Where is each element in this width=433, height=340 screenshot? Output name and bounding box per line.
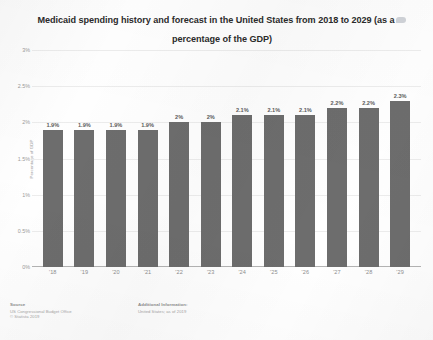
y-axis-tick-labels: 0% 0.5% 1% 1.5% 2% 2.5% 3% [8, 50, 30, 267]
page-title-line2: percentage of the GDP) [172, 34, 272, 44]
statista-logo-icon [396, 16, 407, 24]
x-tick-label: '29 [384, 269, 416, 275]
y-tick-label: 2.5% [18, 83, 30, 89]
x-tick-label: '27 [321, 269, 353, 275]
bar [295, 115, 315, 267]
y-tick-label: 0.5% [18, 228, 30, 234]
bar-value-label: 1.9% [78, 122, 91, 128]
bar [390, 101, 410, 267]
x-tick-label: '24 [226, 269, 258, 275]
bar-slot: 2% [195, 50, 227, 267]
bar-value-label: 2.1% [267, 107, 280, 113]
bar-slot: 2.1% [258, 50, 290, 267]
plot-area: Percentage of GDP 0% 0.5% 1% 1.5% 2% 2.5… [32, 50, 421, 267]
bar-slot: 2.3% [384, 50, 416, 267]
bar [201, 122, 221, 267]
footer-source-block: Source US Congressional Budget Office © … [10, 302, 138, 319]
bar [106, 130, 126, 267]
x-tick-label: '21 [132, 269, 164, 275]
bar-slot: 2.1% [226, 50, 258, 267]
x-tick-label: '26 [290, 269, 322, 275]
bar [43, 130, 63, 267]
bar-series: 1.9%1.9%1.9%1.9%2%2%2.1%2.1%2.1%2.2%2.2%… [32, 50, 421, 267]
bar-slot: 1.9% [69, 50, 101, 267]
bar [232, 115, 252, 267]
bar-slot: 1.9% [37, 50, 69, 267]
bar-value-label: 2.3% [394, 93, 407, 99]
x-tick-label: '18 [37, 269, 69, 275]
y-tick-label: 2% [22, 119, 30, 125]
bar-slot: 2.2% [353, 50, 385, 267]
bar [264, 115, 284, 267]
bar-slot: 2.1% [290, 50, 322, 267]
source-heading: Source [10, 302, 138, 307]
bar-slot: 1.9% [132, 50, 164, 267]
x-axis-tick-labels: '18'19'20'21'22'23'24'25'26'27'28'29 [32, 269, 421, 275]
bar [359, 108, 379, 267]
bar-value-label: 2.2% [362, 100, 375, 106]
additional-info-heading: Additional Information: [138, 302, 338, 307]
bar-value-label: 2% [207, 114, 215, 120]
footer-additional-block: Additional Information: United States; a… [138, 302, 338, 319]
x-tick-label: '25 [258, 269, 290, 275]
page-title: Medicaid spending history and forecast i… [37, 15, 394, 25]
y-tick-label: 3% [22, 47, 30, 53]
bar [74, 130, 94, 267]
bar-value-label: 2.2% [331, 100, 344, 106]
bar-value-label: 2.1% [236, 107, 249, 113]
y-tick-label: 0% [22, 264, 30, 270]
bar-slot: 2.2% [321, 50, 353, 267]
bar [327, 108, 347, 267]
x-tick-label: '22 [163, 269, 195, 275]
bar-value-label: 1.9% [141, 122, 154, 128]
bar [169, 122, 189, 267]
x-tick-label: '28 [353, 269, 385, 275]
chart-title-block: Medicaid spending history and forecast i… [26, 9, 418, 46]
bar-value-label: 2.1% [299, 107, 312, 113]
bar-value-label: 1.9% [46, 122, 59, 128]
bar-value-label: 2% [175, 114, 183, 120]
x-tick-label: '23 [195, 269, 227, 275]
bar [138, 130, 158, 267]
x-tick-label: '20 [100, 269, 132, 275]
source-line: © Statista 2019 [10, 314, 138, 319]
additional-info-line: United States; as of 2019 [138, 309, 338, 314]
y-tick-label: 1.5% [18, 156, 30, 162]
chart-figure: Medicaid spending history and forecast i… [0, 0, 433, 340]
x-tick-label: '19 [69, 269, 101, 275]
y-tick-label: 1% [22, 192, 30, 198]
chart-footer: Source US Congressional Budget Office © … [10, 302, 423, 319]
bar-slot: 2% [163, 50, 195, 267]
bar-value-label: 1.9% [110, 122, 123, 128]
bar-slot: 1.9% [100, 50, 132, 267]
